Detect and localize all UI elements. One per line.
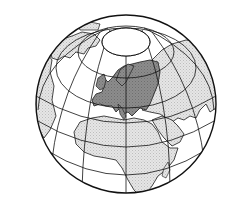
polar-cap	[102, 28, 150, 56]
globe-map: Globe projection highlighting Europe	[0, 0, 233, 201]
globe-svg	[0, 0, 233, 201]
